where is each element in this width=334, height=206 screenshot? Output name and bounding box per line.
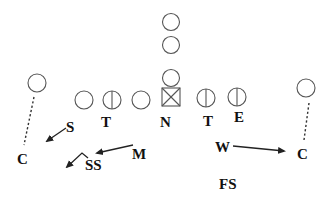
right-receiver-circle-icon — [297, 79, 315, 97]
fullback-circle-icon — [163, 37, 180, 54]
tailback-circle-icon — [163, 14, 180, 31]
label-t-right: T — [203, 113, 213, 129]
offensive-backfield — [163, 14, 180, 87]
m-drop-arrow-icon — [97, 145, 133, 153]
w-drop-arrow-icon — [233, 146, 284, 151]
left-corner-coverage-line — [24, 97, 34, 145]
label-n: N — [160, 114, 171, 130]
label-t-left: T — [101, 114, 111, 130]
defensive-labels: S T N T E C SS M W C FS — [17, 109, 308, 192]
lineman-split-circle-icon — [197, 89, 215, 107]
lineman-split-circle-icon — [103, 91, 121, 109]
label-e: E — [234, 109, 244, 125]
label-w: W — [215, 139, 230, 155]
quarterback-circle-icon — [163, 70, 180, 87]
left-receiver-circle-icon — [28, 74, 46, 92]
center-square-x-icon — [162, 88, 180, 106]
s-drop-arrow-icon — [47, 128, 66, 141]
football-formation-diagram: S T N T E C SS M W C FS — [0, 0, 334, 206]
label-c-left: C — [17, 151, 28, 167]
lineman-circle-icon — [75, 91, 93, 109]
label-fs: FS — [219, 176, 237, 192]
right-corner-coverage-line — [304, 103, 309, 140]
lineman-circle-icon — [132, 91, 150, 109]
label-s: S — [66, 119, 74, 135]
label-c-right: C — [297, 146, 308, 162]
offensive-line — [75, 88, 246, 109]
label-m: M — [132, 146, 146, 162]
tight-end-split-circle-icon — [228, 88, 246, 106]
label-ss: SS — [85, 157, 102, 173]
